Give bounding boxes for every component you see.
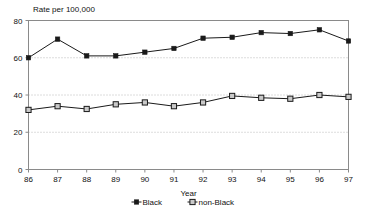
data-point <box>346 94 351 99</box>
data-point <box>346 39 350 43</box>
x-tick-label: 93 <box>228 175 237 184</box>
data-point <box>113 102 118 107</box>
x-axis-title: Year <box>180 189 197 198</box>
x-tick-label: 97 <box>344 175 353 184</box>
y-tick-label: 80 <box>14 17 23 26</box>
x-tick-label: 96 <box>315 175 324 184</box>
data-point <box>171 104 176 109</box>
series-line <box>29 30 349 58</box>
chart-title: Rate per 100,000 <box>33 5 95 14</box>
gridlines <box>29 58 349 133</box>
data-point <box>84 106 89 111</box>
data-point <box>288 96 293 101</box>
line-chart: 020406080868788899091929394959697Rate pe… <box>0 0 366 214</box>
legend-item-black[interactable]: Black <box>132 198 164 207</box>
legend-label: non-Black <box>199 198 236 207</box>
legend-marker-open-square-icon <box>190 199 195 204</box>
x-tick-label: 94 <box>257 175 266 184</box>
data-point <box>55 37 59 41</box>
x-tick-label: 90 <box>140 175 149 184</box>
legend-label: Black <box>143 198 164 207</box>
series-line <box>29 95 349 110</box>
x-axis: 868788899091929394959697 <box>24 170 353 184</box>
data-point <box>201 36 205 40</box>
x-tick-label: 95 <box>286 175 295 184</box>
chart-container: 020406080868788899091929394959697Rate pe… <box>0 0 366 214</box>
data-point <box>142 100 147 105</box>
data-point <box>288 31 292 35</box>
x-tick-label: 86 <box>24 175 33 184</box>
data-point <box>84 54 88 58</box>
data-point <box>114 54 118 58</box>
data-point <box>317 28 321 32</box>
y-tick-label: 0 <box>18 166 23 175</box>
x-tick-label: 87 <box>53 175 62 184</box>
legend-item-non-black[interactable]: non-Black <box>188 198 236 207</box>
x-tick-label: 88 <box>82 175 91 184</box>
data-point <box>259 30 263 34</box>
data-point <box>200 100 205 105</box>
data-point <box>172 46 176 50</box>
series-black <box>26 28 350 60</box>
data-point <box>143 50 147 54</box>
legend-marker-filled-square-icon <box>134 200 138 204</box>
data-point <box>259 95 264 100</box>
y-tick-label: 20 <box>14 128 23 137</box>
data-point <box>317 92 322 97</box>
legend: Blacknon-Black <box>132 198 236 207</box>
data-point <box>230 93 235 98</box>
data-point <box>230 35 234 39</box>
y-tick-label: 40 <box>14 91 23 100</box>
y-axis: 020406080 <box>14 17 29 175</box>
data-point <box>55 104 60 109</box>
x-tick-label: 92 <box>199 175 208 184</box>
data-point <box>26 56 30 60</box>
data-point <box>26 107 31 112</box>
y-tick-label: 60 <box>14 54 23 63</box>
x-tick-label: 91 <box>170 175 179 184</box>
x-tick-label: 89 <box>111 175 120 184</box>
